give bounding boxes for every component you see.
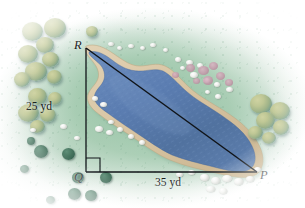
vertex-label-p: P <box>260 168 268 183</box>
pond-triangle-figure: R Q P 25 yd 35 yd <box>0 0 305 208</box>
dimension-label-horizontal: 35 yd <box>155 176 181 188</box>
right-angle-marker <box>86 158 100 172</box>
triangle-hypotenuse-rp <box>86 48 257 172</box>
vertex-label-q: Q <box>74 170 83 185</box>
vertex-label-r: R <box>74 38 82 53</box>
dimension-label-vertical: 25 yd <box>26 100 52 112</box>
